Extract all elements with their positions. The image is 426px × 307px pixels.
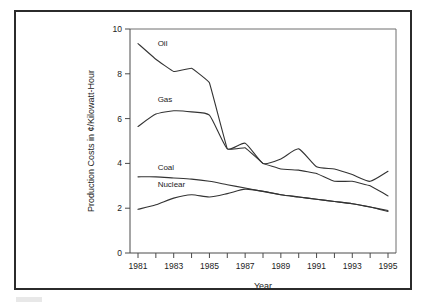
page-edge-artifact — [16, 297, 42, 302]
series-line-nuclear — [138, 189, 388, 211]
x-tick-label: 1995 — [379, 261, 398, 271]
y-tick-label: 2 — [117, 203, 122, 213]
x-tick-label: 1983 — [164, 261, 183, 271]
x-tick-label: 1981 — [129, 261, 148, 271]
y-tick-label: 0 — [117, 248, 122, 258]
series-line-oil — [138, 44, 388, 196]
y-tick-label: 6 — [117, 114, 122, 124]
y-tick-label: 4 — [117, 158, 122, 168]
production-costs-line-chart: 024681019811983198519871989199119931995Y… — [16, 12, 410, 288]
x-tick-label: 1985 — [200, 261, 219, 271]
series-label-nuclear: Nuclear — [158, 180, 186, 189]
figure-frame: 024681019811983198519871989199119931995Y… — [14, 10, 412, 290]
y-tick-label: 8 — [117, 69, 122, 79]
y-tick-label: 10 — [113, 24, 123, 34]
y-axis-title: Production Costs in ¢/Kilowatt-Hour — [86, 70, 96, 212]
series-line-gas — [138, 111, 388, 182]
x-tick-label: 1987 — [236, 261, 255, 271]
plot-area-border — [130, 29, 396, 253]
series-label-oil: Oil — [158, 39, 168, 48]
x-tick-label: 1991 — [307, 261, 326, 271]
series-label-coal: Coal — [158, 163, 175, 172]
series-label-gas: Gas — [158, 95, 173, 104]
x-axis-title: Year — [254, 281, 272, 288]
x-tick-label: 1993 — [343, 261, 362, 271]
x-tick-label: 1989 — [271, 261, 290, 271]
